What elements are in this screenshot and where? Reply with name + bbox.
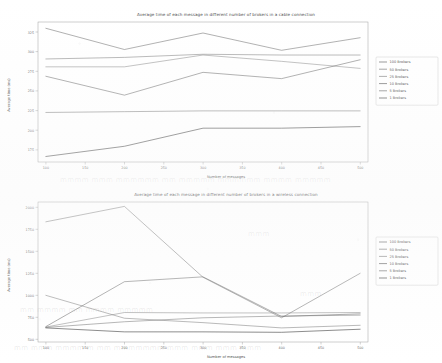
series-line-10-brokers	[46, 60, 360, 95]
legend-label: 1 Brokers	[390, 96, 407, 100]
svg-text:100: 100	[43, 346, 49, 350]
svg-text:1000: 1000	[26, 294, 34, 298]
svg-text:400: 400	[279, 166, 285, 170]
cable-x-ticks: 100 150 200 250 300 350 400 450 500	[43, 162, 364, 170]
wireless-y-ticks: 2000 1750 1500 1250 1000 750 500	[26, 206, 38, 342]
svg-text:450: 450	[318, 346, 324, 350]
series-line-100-brokers	[46, 28, 360, 50]
cable-series-group	[46, 28, 360, 156]
legend-label: 10 Brokers	[390, 262, 409, 266]
cable-legend[interactable]: 100 Brokers50 Brokers25 Brokers10 Broker…	[376, 57, 438, 105]
svg-text:500: 500	[28, 338, 34, 342]
cable-yaxis-label: Average time (ms)	[7, 78, 11, 112]
wireless-legend[interactable]: 100 Brokers50 Brokers25 Brokers10 Broker…	[376, 237, 438, 285]
series-line-25-brokers	[46, 313, 360, 328]
figure-wireless-connection: Average time of each message in differen…	[0, 182, 442, 363]
svg-text:100: 100	[43, 166, 49, 170]
svg-text:500: 500	[357, 166, 363, 170]
svg-text:200: 200	[121, 166, 127, 170]
wireless-plot-frame	[38, 202, 368, 342]
legend-label: 5 Brokers	[390, 269, 407, 273]
series-line-10-brokers	[46, 277, 360, 327]
series-line-100-brokers	[46, 206, 360, 317]
wireless-x-ticks: 100 150 200 250 300 350 400 450 500	[43, 342, 364, 350]
svg-text:325: 325	[28, 31, 34, 35]
svg-text:2000: 2000	[26, 206, 34, 210]
cable-chart-title: Average time of each message in differen…	[137, 12, 315, 17]
svg-text:200: 200	[121, 346, 127, 350]
svg-text:350: 350	[239, 166, 245, 170]
cable-xaxis-label: Number of messages	[207, 175, 245, 179]
wireless-chart-svg: Average time of each message in differen…	[0, 182, 442, 363]
svg-text:250: 250	[161, 166, 167, 170]
svg-text:200: 200	[28, 129, 34, 133]
svg-text:250: 250	[28, 89, 34, 93]
series-line-5-brokers	[46, 111, 360, 113]
legend-label: 50 Brokers	[390, 248, 409, 252]
legend-label: 25 Brokers	[390, 75, 409, 79]
svg-text:750: 750	[28, 316, 34, 320]
figure-cable-connection: Average time of each message in differen…	[0, 0, 442, 182]
svg-text:450: 450	[318, 166, 324, 170]
cable-chart-svg: Average time of each message in differen…	[0, 0, 442, 182]
svg-text:500: 500	[357, 346, 363, 350]
svg-text:150: 150	[82, 166, 88, 170]
cable-y-ticks: 325 300 275 250 225 200 175	[28, 31, 38, 153]
series-line-1-brokers	[46, 127, 360, 157]
svg-text:1500: 1500	[26, 250, 34, 254]
legend-label: 100 Brokers	[390, 60, 411, 64]
legend-label: 25 Brokers	[390, 255, 409, 259]
legend-label: 50 Brokers	[390, 68, 409, 72]
wireless-chart-title: Average time of each message in differen…	[134, 192, 318, 197]
svg-text:300: 300	[200, 346, 206, 350]
series-line-5-brokers	[46, 315, 360, 327]
series-line-25-brokers	[46, 55, 360, 68]
svg-text:1250: 1250	[26, 272, 34, 276]
legend-label: 100 Brokers	[390, 240, 411, 244]
wireless-xaxis-label: Number of messages	[207, 355, 245, 359]
svg-text:150: 150	[82, 346, 88, 350]
legend-label: 5 Brokers	[390, 89, 407, 93]
svg-text:175: 175	[28, 148, 34, 152]
cable-plot-frame	[38, 22, 368, 162]
series-line-1-brokers	[46, 328, 360, 332]
legend-label: 10 Brokers	[390, 82, 409, 86]
svg-text:275: 275	[28, 70, 34, 74]
wireless-yaxis-label: Average time (ms)	[7, 258, 11, 292]
wireless-series-group	[46, 206, 360, 332]
svg-text:250: 250	[161, 346, 167, 350]
svg-text:300: 300	[200, 166, 206, 170]
svg-text:400: 400	[279, 346, 285, 350]
svg-text:300: 300	[28, 50, 34, 54]
svg-text:1750: 1750	[26, 228, 34, 232]
legend-label: 1 Brokers	[390, 276, 407, 280]
svg-text:225: 225	[28, 109, 34, 113]
svg-text:350: 350	[239, 346, 245, 350]
